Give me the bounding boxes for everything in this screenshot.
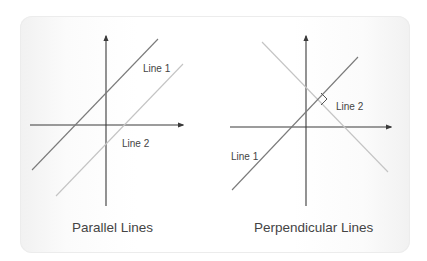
panel-title: Perpendicular Lines (254, 220, 374, 235)
line-1 (32, 39, 158, 170)
line-1-label: Line 1 (231, 151, 259, 162)
line-1-label: Line 1 (143, 63, 171, 74)
parallel-lines-panel: Line 1 Line 2 Parallel Lines (30, 36, 183, 235)
line-1 (232, 57, 358, 190)
line-2 (262, 42, 388, 172)
line-2-label: Line 2 (336, 101, 364, 112)
panel-title: Parallel Lines (72, 220, 153, 235)
lines-diagram: Line 1 Line 2 Parallel Lines Line 2 Line… (0, 0, 427, 261)
line-2 (56, 64, 183, 196)
line-2-label: Line 2 (122, 138, 150, 149)
perpendicular-lines-panel: Line 2 Line 1 Perpendicular Lines (230, 36, 391, 235)
